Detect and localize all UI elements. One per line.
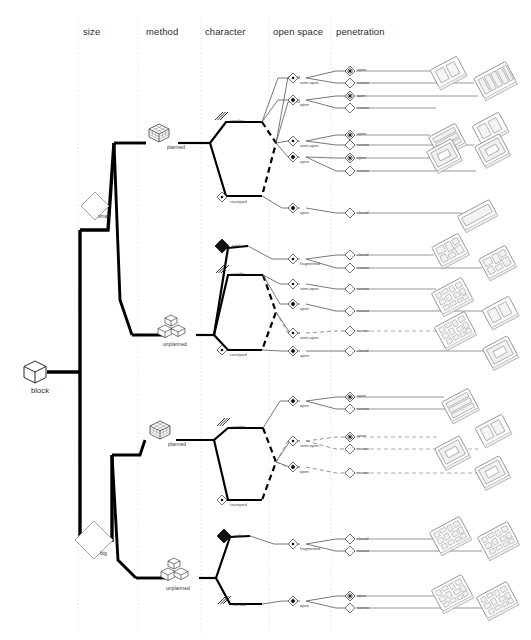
diamond-outline-icon — [345, 78, 355, 88]
character-label-1: corridor — [230, 118, 244, 123]
diamond-dot-icon — [288, 539, 298, 549]
diamond-star-icon — [345, 66, 355, 76]
openspace-label-9: semi-open — [300, 335, 319, 340]
diamond-star-icon — [345, 153, 355, 163]
diamond-outline-icon — [345, 404, 355, 414]
diamond-outline-icon — [345, 534, 355, 544]
diamond-star-icon — [345, 91, 355, 101]
openspace-label-13: open — [300, 469, 309, 474]
dashed-penetration-edges — [306, 331, 346, 473]
openspace-label-7: semi-open — [300, 286, 319, 291]
diamond-dot-icon — [288, 328, 298, 338]
diamond-star-icon — [345, 130, 355, 140]
character-label-8: solid — [234, 533, 242, 538]
penetration-label-17: narrow — [357, 406, 369, 411]
diamond-star-icon — [345, 392, 355, 402]
cube-icon — [24, 361, 46, 383]
column-header-method: method — [146, 26, 178, 37]
hatched-lines-icon — [215, 112, 228, 120]
isometric-building-block-icon — [430, 56, 467, 90]
openspace-label-12: semi-open — [300, 443, 319, 448]
diamond-dot-icon — [288, 73, 298, 83]
method-label-planned-small: planned — [167, 144, 185, 150]
diamond-outline-icon — [345, 306, 355, 316]
openspace-label-2: open — [300, 102, 309, 107]
penetration-label-2: narrow — [357, 80, 369, 85]
openspace-label-10: open — [300, 353, 309, 358]
isometric-building-block-icon — [429, 516, 471, 555]
diamond-star-icon — [345, 432, 355, 442]
column-header-penetration: penetration — [336, 26, 385, 37]
diamond-outline-icon — [345, 263, 355, 273]
isometric-building-block-icon — [475, 414, 512, 448]
openspace-label-14: fragmented — [300, 546, 320, 551]
diamond-dot-icon — [288, 436, 298, 446]
penetration-label-12: narrow — [357, 286, 369, 291]
diamond-dot-icon — [217, 495, 227, 505]
openspace-label-11: open — [300, 403, 309, 408]
grid-cube-icon — [150, 421, 170, 439]
diamond-outline-icon — [345, 326, 355, 336]
diamond-filled-icon — [288, 203, 298, 213]
hatched-lines-icon — [217, 418, 230, 426]
penetration-label-9: closed — [357, 210, 369, 215]
character-label-2: courtyard — [230, 199, 247, 204]
openspace-label-3: semi-open — [300, 143, 319, 148]
diamond-filled-icon — [288, 152, 298, 162]
openspace-node-glyphs[interactable] — [288, 73, 298, 606]
diamond-filled-icon — [288, 346, 298, 356]
character-label-4: corridor — [231, 271, 245, 276]
diamond-outline-icon — [345, 250, 355, 260]
diamond-dot-icon — [288, 136, 298, 146]
diamond-outline-icon — [345, 346, 355, 356]
penetration-label-16: open — [357, 393, 366, 398]
isometric-building-block-icon — [434, 311, 476, 350]
penetration-label-10: closed — [357, 252, 369, 257]
character-label-7: courtyard — [230, 502, 247, 507]
penetration-label-14: narrow — [357, 328, 369, 333]
grid-cube-icon — [149, 124, 169, 142]
diamond-outline-icon — [345, 603, 355, 613]
openspace-label-5: open — [300, 210, 309, 215]
column-header-size: size — [83, 26, 100, 37]
diamond-dot-icon — [288, 254, 298, 264]
isometric-building-block-icon — [457, 199, 497, 232]
diamond-outline-icon — [345, 208, 355, 218]
size-label-small: small — [98, 213, 110, 219]
penetration-label-19: narrow — [357, 446, 369, 451]
stacked-cubes-icon — [158, 315, 185, 338]
taxonomy-diagram: size method character open space penetra… — [0, 0, 531, 640]
isometric-building-block-icon — [476, 581, 518, 620]
column-header-open-space: open space — [273, 26, 323, 37]
openspace-label-4: open — [300, 159, 309, 164]
diamond-filled-icon — [288, 596, 298, 606]
diagram-canvas — [0, 0, 531, 640]
penetration-label-20: narrow — [357, 470, 369, 475]
method-label-unplanned-big: unplanned — [166, 585, 190, 591]
isometric-building-block-icon — [474, 456, 510, 491]
root-node[interactable] — [24, 361, 46, 383]
penetration-label-3: open — [357, 93, 366, 98]
isometric-building-block-icon — [477, 521, 519, 560]
openspace-label-1: semi-open — [300, 80, 319, 85]
isometric-building-block-icon — [442, 388, 480, 424]
penetration-label-5: open — [357, 131, 366, 136]
diamond-star-icon — [345, 591, 355, 601]
penetration-label-21: closed — [357, 536, 369, 541]
penetration-node-glyphs[interactable] — [345, 66, 355, 613]
stacked-cubes-icon — [161, 558, 188, 581]
diamond-dot-icon — [288, 279, 298, 289]
penetration-label-22: narrow — [357, 548, 369, 553]
isometric-building-block-icon — [432, 233, 470, 269]
penetration-label-24: narrow — [357, 605, 369, 610]
diamond-filled-icon — [288, 396, 298, 406]
method-node-glyphs[interactable] — [149, 124, 188, 581]
isometric-building-block-icon — [482, 296, 519, 330]
hatched-lines-icon — [216, 265, 229, 273]
openspace-label-6: fragmented — [300, 261, 320, 266]
openspace-label-8: open — [300, 306, 309, 311]
diamond-outline-icon — [345, 166, 355, 176]
character-label-3: solid — [232, 243, 240, 248]
method-label-planned-big: planned — [168, 441, 186, 447]
penetration-label-8: narrow — [357, 168, 369, 173]
